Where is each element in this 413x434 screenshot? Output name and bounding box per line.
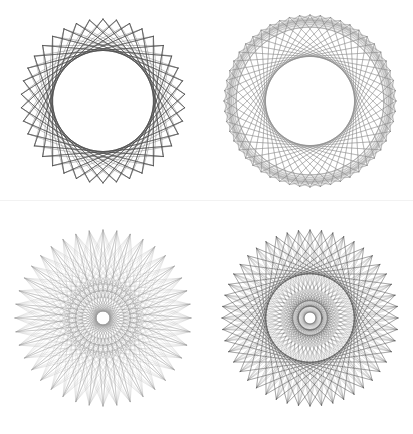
thin-petal-rosette-chords (15, 230, 191, 406)
spirograph-canvas (0, 0, 413, 434)
panel-top-left (0, 0, 207, 201)
chord-set-envelope-2 (224, 15, 396, 187)
chord-set-envelope-4 (224, 15, 396, 187)
chord-set-envelope-1 (224, 15, 396, 187)
chord-set-primary (224, 15, 396, 187)
inner-core-circle (51, 48, 156, 153)
chord-set-envelope-3 (222, 230, 398, 406)
panel-top-right (207, 0, 413, 201)
dense-sunburst-star-chords (22, 19, 185, 183)
dense-sunburst-star-svg (15, 13, 191, 189)
chord-set-envelope-2 (22, 19, 185, 183)
rounded-polygon-ring-svg (218, 9, 402, 193)
thin-petal-rosette-svg (9, 224, 197, 412)
dense-16-point-star-svg (216, 224, 404, 412)
dense-16-point-star-chords (222, 230, 398, 406)
chord-set-envelope-3 (15, 230, 191, 406)
figure-grid (0, 0, 413, 434)
chord-set-mirror (224, 15, 396, 187)
panel-bottom-left (0, 201, 207, 434)
chord-set-envelope-3 (224, 15, 396, 187)
rounded-polygon-ring-chords (224, 15, 396, 187)
inner-core-circle (76, 290, 131, 345)
panel-bottom-right (207, 201, 413, 434)
